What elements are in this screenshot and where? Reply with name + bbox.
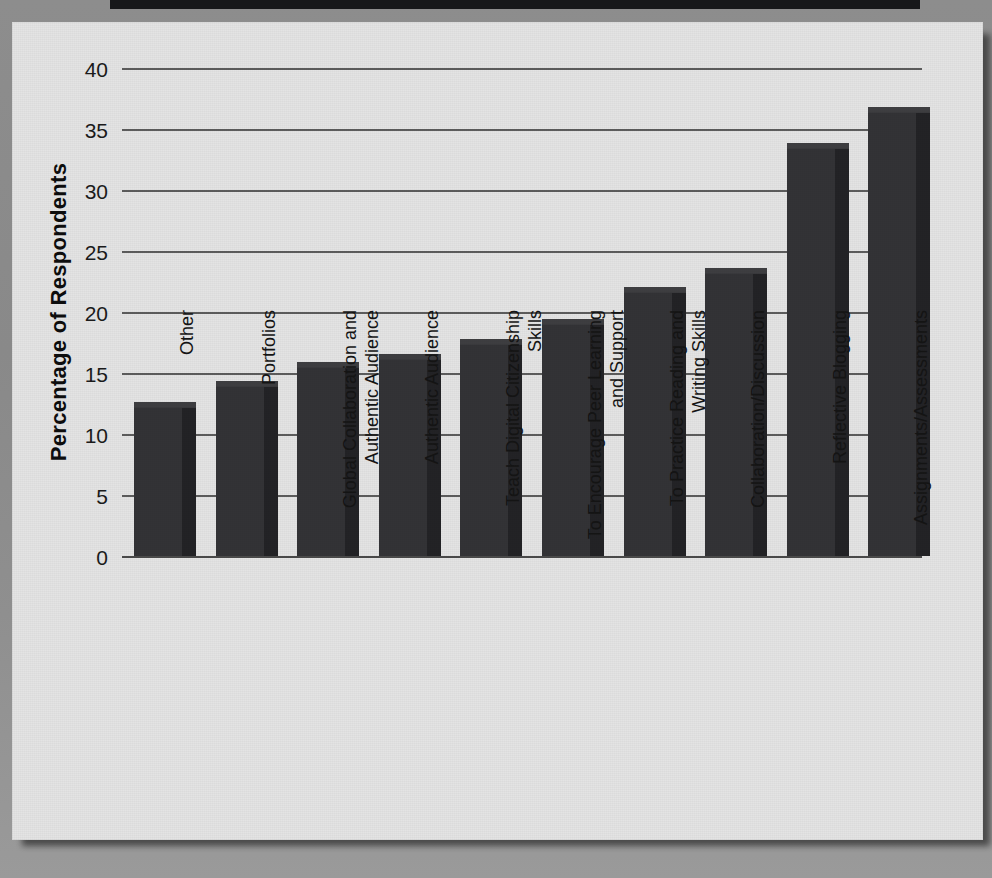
page-top-edge-strip (110, 0, 920, 9)
y-axis-tick-label: 35 (85, 119, 108, 143)
y-axis-tick-label: 20 (85, 302, 108, 326)
x-axis-tick-label: Global Collaboration and Authentic Audie… (339, 310, 383, 570)
x-axis-tick-label: Teach Digital Citizenship Skills (502, 310, 546, 570)
x-axis-tick-label: To Encourage Peer Learning and Support (584, 310, 628, 570)
y-axis-tick-label: 30 (85, 180, 108, 204)
x-axis-tick-label: Other (176, 310, 198, 570)
y-axis-title-text: Percentage of Respondents (46, 163, 72, 461)
x-axis-tick-label: Collaboration/Discussion (747, 310, 769, 570)
y-axis-tick-label: 15 (85, 363, 108, 387)
x-axis-tick-label: Authentic Audience (421, 310, 443, 570)
y-axis-tick-label: 25 (85, 241, 108, 265)
x-axis-tick-label: Reflective Blogging (829, 310, 851, 570)
x-axis-tick-label: Assignments/Assessments (910, 310, 932, 570)
y-axis-tick-label: 5 (96, 485, 108, 509)
y-axis-tick-label: 40 (85, 58, 108, 82)
x-axis-tick-label: To Practice Reading and Writing Skills (666, 310, 710, 570)
y-axis-tick-label: 10 (85, 424, 108, 448)
plot-area: 4035302520151050 OtherPortfoliosGlobal C… (122, 68, 922, 556)
y-axis-tick-label: 0 (96, 546, 108, 570)
x-axis-tick-label: Portfolios (258, 310, 280, 570)
chart-panel: Percentage of Respondents 40353025201510… (12, 22, 983, 840)
y-axis-title: Percentage of Respondents (42, 68, 76, 556)
